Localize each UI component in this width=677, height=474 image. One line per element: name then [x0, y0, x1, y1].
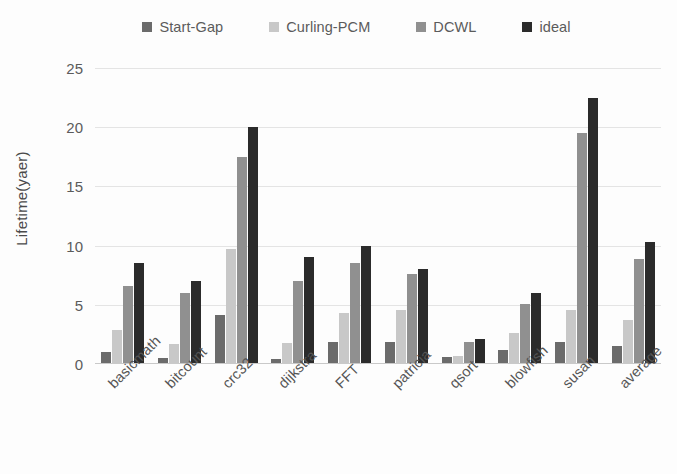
- bar-group: [101, 68, 144, 364]
- legend-label: Start-Gap: [159, 19, 223, 35]
- bar-group: [612, 68, 655, 364]
- bar[interactable]: [385, 342, 395, 364]
- bar[interactable]: [498, 350, 508, 364]
- legend-swatch-icon: [522, 22, 532, 32]
- x-label-slot: basicmath: [101, 364, 144, 474]
- bar-group: [498, 68, 541, 364]
- bar-group: [328, 68, 371, 364]
- x-axis-label: FFT: [332, 361, 362, 391]
- bar[interactable]: [623, 320, 633, 364]
- bar[interactable]: [555, 342, 565, 364]
- bar[interactable]: [475, 339, 485, 364]
- y-tick-label: 0: [75, 356, 83, 373]
- bar[interactable]: [634, 259, 644, 364]
- bar[interactable]: [612, 346, 622, 364]
- bar-group: [271, 68, 314, 364]
- plot-area: 0510152025: [95, 68, 661, 364]
- bar[interactable]: [328, 342, 338, 364]
- legend-swatch-icon: [269, 22, 279, 32]
- bar[interactable]: [577, 133, 587, 364]
- legend-item-start-gap[interactable]: Start-Gap: [142, 19, 223, 35]
- y-axis-title: Lifetime(yaer): [13, 99, 30, 299]
- bar-group: [385, 68, 428, 364]
- legend-item-ideal[interactable]: ideal: [522, 19, 570, 35]
- y-tick-label: 20: [66, 119, 83, 136]
- bar[interactable]: [248, 127, 258, 364]
- y-tick-label: 15: [66, 178, 83, 195]
- legend-item-dcwl[interactable]: DCWL: [416, 19, 476, 35]
- bar[interactable]: [588, 98, 598, 364]
- y-tick-label: 10: [66, 237, 83, 254]
- bar[interactable]: [169, 344, 179, 364]
- bar-group: [215, 68, 258, 364]
- legend-label: Curling-PCM: [286, 19, 370, 35]
- legend-item-curling-pcm[interactable]: Curling-PCM: [269, 19, 370, 35]
- y-tick-label: 5: [75, 296, 83, 313]
- bar-chart: Start-GapCurling-PCMDCWLideal Lifetime(y…: [0, 0, 677, 474]
- x-label-slot: dijkstra: [271, 364, 314, 474]
- chart-legend: Start-GapCurling-PCMDCWLideal: [0, 14, 677, 40]
- legend-swatch-icon: [416, 22, 426, 32]
- y-tick-label: 25: [66, 60, 83, 77]
- x-label-slot: crc32: [215, 364, 258, 474]
- bar[interactable]: [215, 315, 225, 364]
- bar[interactable]: [361, 246, 371, 364]
- bar[interactable]: [396, 310, 406, 364]
- bar[interactable]: [112, 330, 122, 364]
- x-label-slot: FFT: [328, 364, 371, 474]
- bar-group: [555, 68, 598, 364]
- bar[interactable]: [509, 333, 519, 364]
- bar-group: [158, 68, 201, 364]
- bar-group: [442, 68, 485, 364]
- legend-label: ideal: [539, 19, 570, 35]
- x-label-slot: qsort: [442, 364, 485, 474]
- bar[interactable]: [339, 313, 349, 364]
- bar[interactable]: [407, 274, 417, 364]
- x-label-slot: blowfish: [498, 364, 541, 474]
- x-axis-labels: basicmathbitcountcrc32dijkstraFFTpatrici…: [95, 364, 661, 474]
- bar[interactable]: [237, 157, 247, 364]
- x-label-slot: bitcount: [158, 364, 201, 474]
- bar[interactable]: [282, 343, 292, 364]
- bars-layer: [95, 68, 661, 364]
- bar[interactable]: [350, 263, 360, 364]
- legend-label: DCWL: [433, 19, 476, 35]
- bar[interactable]: [226, 249, 236, 364]
- x-label-slot: susan: [555, 364, 598, 474]
- legend-swatch-icon: [142, 22, 152, 32]
- x-label-slot: average: [612, 364, 655, 474]
- bar[interactable]: [566, 310, 576, 364]
- x-label-slot: patricia: [385, 364, 428, 474]
